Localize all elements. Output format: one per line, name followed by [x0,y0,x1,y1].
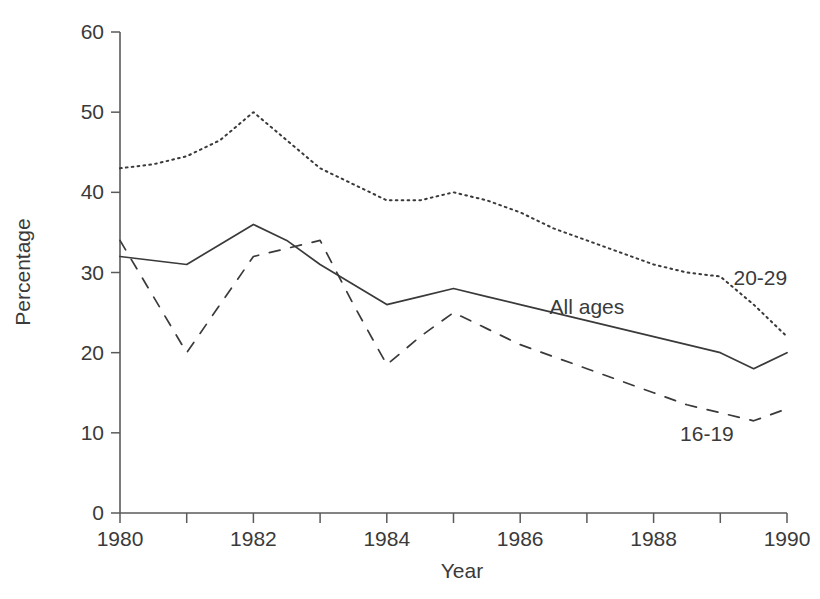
x-axis-ticks [120,513,787,523]
y-tick-label: 30 [81,261,104,284]
y-axis-title: Percentage [11,218,34,325]
x-tick-label: 1982 [230,527,277,550]
x-tick-label: 1990 [764,527,811,550]
line-chart: 0102030405060 198019821984198619881990 2… [0,0,820,599]
x-tick-label: 1988 [630,527,677,550]
x-tick-label: 1984 [363,527,410,550]
y-tick-label: 60 [81,20,104,43]
series-label-all-ages: All ages [550,295,625,318]
y-tick-label: 10 [81,421,104,444]
x-axis-title: Year [441,559,483,582]
axes: 0102030405060 198019821984198619881990 [81,20,811,550]
chart-container: 0102030405060 198019821984198619881990 2… [0,0,820,599]
y-tick-label: 40 [81,180,104,203]
x-tick-label: 1986 [497,527,544,550]
series-line-all-ages [120,224,787,368]
y-tick-label: 0 [92,501,104,524]
series-line-20-29 [120,112,787,336]
y-axis-ticks [111,32,120,513]
y-tick-label: 50 [81,100,104,123]
series-label-20-29: 20-29 [733,266,787,289]
series-annotations: 20-29All ages16-19 [550,266,788,445]
y-tick-label: 20 [81,341,104,364]
x-axis-tick-labels: 198019821984198619881990 [97,527,811,550]
x-tick-label: 1980 [97,527,144,550]
y-axis-tick-labels: 0102030405060 [81,20,104,524]
series-label-16-19: 16-19 [680,422,734,445]
data-series-group [120,112,787,421]
series-line-16-19 [120,240,787,420]
